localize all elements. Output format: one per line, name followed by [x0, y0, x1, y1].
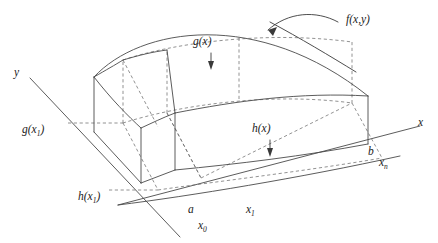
label-b: b — [368, 145, 374, 157]
slab-left-face-edge — [94, 77, 141, 128]
label-g-at-x1: g(x1) — [22, 123, 44, 138]
base-curve-h — [158, 158, 382, 190]
label-surface: f(x,y) — [346, 13, 370, 26]
label-g-at-x1-main: g(x — [22, 123, 38, 136]
base-right-edge — [352, 103, 382, 158]
label-xn: xn — [378, 156, 388, 171]
slab-bottom-left-edge — [94, 132, 141, 183]
label-x-axis: x — [417, 116, 424, 128]
label-x1: x1 — [245, 203, 255, 218]
label-x0: x0 — [197, 219, 207, 234]
label-g-of-x: g(x) — [193, 35, 212, 48]
label-x0-subscript: 0 — [203, 225, 207, 234]
label-xn-subscript: n — [384, 162, 388, 171]
base-left-edge — [123, 123, 158, 190]
front-bottom-curve — [175, 144, 368, 170]
svg-text:x0: x0 — [197, 219, 207, 234]
svg-text:xn: xn — [378, 156, 388, 171]
label-h-at-x1-close: ) — [95, 190, 100, 203]
x-axis-line — [118, 126, 420, 205]
label-a: a — [188, 203, 194, 215]
svg-text:g(x1): g(x1) — [22, 123, 44, 138]
slab-to-body-bottom — [141, 170, 175, 183]
g-arrow-head — [208, 61, 214, 70]
label-g-at-x1-close: ) — [39, 123, 44, 136]
label-x1-subscript: 1 — [251, 209, 255, 218]
label-h-at-x1: h(x1) — [78, 190, 100, 205]
slab-front-to-slice — [141, 113, 175, 128]
slice-top-edge — [167, 50, 175, 113]
svg-text:h(x1): h(x1) — [78, 190, 100, 205]
surface-arrow-curve — [268, 14, 338, 30]
diagram-canvas: f(x,y) g(x) h(x) g(x1) h(x1) a b x0 x1 — [0, 0, 438, 243]
label-h-of-x: h(x) — [252, 122, 271, 135]
surface-arrow-tail — [270, 22, 356, 72]
label-y-axis: y — [13, 66, 20, 79]
ground-front-contour — [118, 156, 400, 205]
hidden-diagonal-front — [201, 103, 352, 178]
label-h-at-x1-main: h(x — [78, 190, 94, 203]
slab-top-left-edge — [94, 60, 123, 77]
y-axis-line — [30, 78, 180, 237]
hidden-slice-left-diagonal — [123, 60, 158, 127]
top-front-curve — [175, 95, 368, 113]
figure-container: f(x,y) g(x) h(x) g(x1) h(x1) a b x0 x1 — [0, 0, 438, 243]
top-outer-silhouette — [94, 35, 368, 96]
h-arrow-head — [267, 148, 273, 157]
svg-text:x1: x1 — [245, 203, 255, 218]
